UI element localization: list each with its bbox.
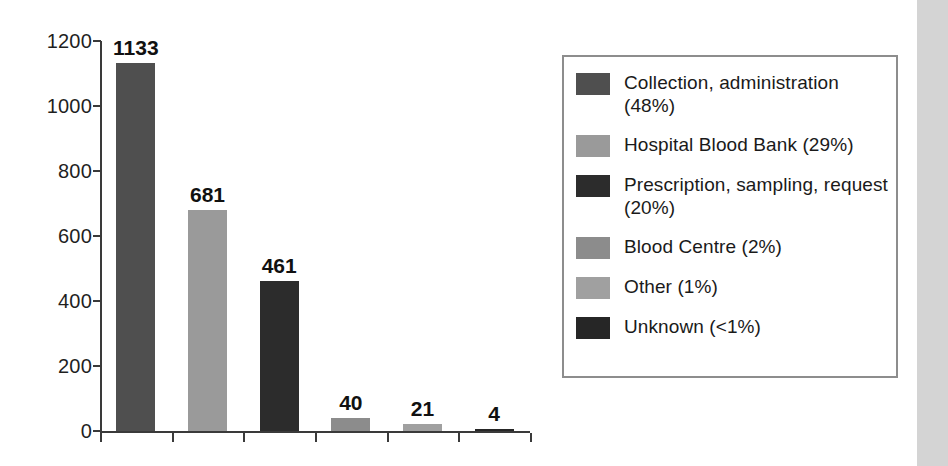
bar-value-label: 1133 — [96, 37, 176, 58]
legend-item: Prescription, sampling, request (20%) — [576, 173, 888, 219]
bars-layer — [0, 0, 545, 431]
x-axis-tick-mark — [387, 433, 389, 442]
bar — [116, 63, 155, 431]
legend-item: Unknown (<1%) — [576, 315, 888, 339]
legend-item-label: Hospital Blood Bank (29%) — [624, 133, 854, 156]
legend-item: Blood Centre (2%) — [576, 235, 888, 259]
bar-value-label: 461 — [239, 255, 319, 276]
bar — [331, 418, 370, 431]
legend-item-list: Collection, administration (48%)Hospital… — [576, 71, 888, 355]
legend-item: Collection, administration (48%) — [576, 71, 888, 117]
legend-color-swatch — [576, 237, 610, 259]
bar — [188, 210, 227, 431]
legend-color-swatch — [576, 135, 610, 157]
plot-area: 120010008006004002000 113368146140214 — [0, 0, 545, 466]
legend-color-swatch — [576, 175, 610, 197]
legend-color-swatch — [576, 277, 610, 299]
x-axis-tick-mark — [315, 433, 317, 442]
bar-value-label: 4 — [454, 403, 534, 424]
bar-value-label: 21 — [383, 398, 463, 419]
bar-value-label: 40 — [311, 392, 391, 413]
bar-chart-figure: 120010008006004002000 113368146140214 Co… — [0, 0, 948, 466]
bar — [475, 429, 514, 431]
x-axis-tick-mark — [458, 433, 460, 442]
chart-legend: Collection, administration (48%)Hospital… — [562, 55, 898, 378]
legend-item: Other (1%) — [576, 275, 888, 299]
legend-color-swatch — [576, 73, 610, 95]
legend-item-label: Collection, administration (48%) — [624, 71, 888, 117]
legend-color-swatch — [576, 317, 610, 339]
legend-item-label: Blood Centre (2%) — [624, 235, 782, 258]
legend-item-label: Other (1%) — [624, 275, 718, 298]
legend-item-label: Unknown (<1%) — [624, 315, 761, 338]
legend-item-label: Prescription, sampling, request (20%) — [624, 173, 888, 219]
bar-value-label: 681 — [168, 184, 248, 205]
x-axis-tick-mark — [100, 433, 102, 442]
x-axis-tick-mark — [243, 433, 245, 442]
x-axis-tick-mark — [530, 433, 532, 442]
bar — [403, 424, 442, 431]
x-axis-tick-mark — [172, 433, 174, 442]
legend-item: Hospital Blood Bank (29%) — [576, 133, 888, 157]
bar — [260, 281, 299, 431]
